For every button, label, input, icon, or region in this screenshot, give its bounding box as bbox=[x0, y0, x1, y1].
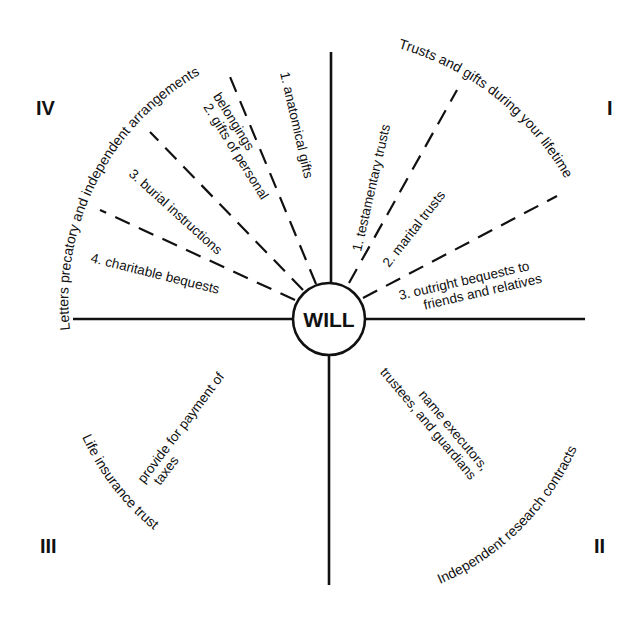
spoke-provide-payment-taxes: provide for payment of taxes bbox=[134, 369, 238, 494]
spoke-outright-bequests: 3. outright bequests to friends and rela… bbox=[397, 256, 543, 317]
quadrant-numeral-iv: IV bbox=[36, 97, 56, 119]
arc-label-i: Trusts and gifts during your lifetime bbox=[397, 36, 576, 181]
arc-label-iii: Life insurance trust bbox=[79, 431, 162, 532]
svg-text:provide for payment of: provide for payment of bbox=[134, 369, 227, 485]
will-label: WILL bbox=[303, 308, 354, 331]
will-diagram: WILL IV I III II Letters precatory and i… bbox=[0, 0, 641, 631]
spoke-gifts-personal-belongings: 2. gifts of personal belongings bbox=[198, 90, 283, 202]
arc-label-iv: Letters precatory and independent arrang… bbox=[55, 63, 201, 331]
quadrant-numeral-i: I bbox=[607, 97, 613, 119]
quadrant-numeral-ii: II bbox=[594, 535, 605, 557]
spoke-testamentary-trusts: 1. testamentary trusts bbox=[349, 123, 393, 253]
quadrant-numeral-iii: III bbox=[40, 535, 57, 557]
spoke-name-executors: name executors, trustees, and guardians bbox=[377, 355, 491, 483]
spoke-charitable-bequests: 4. charitable bequests bbox=[89, 250, 221, 297]
svg-text:trustees, and guardians: trustees, and guardians bbox=[377, 365, 479, 483]
spoke-anatomical-gifts: 1. anatomical gifts bbox=[277, 70, 316, 180]
